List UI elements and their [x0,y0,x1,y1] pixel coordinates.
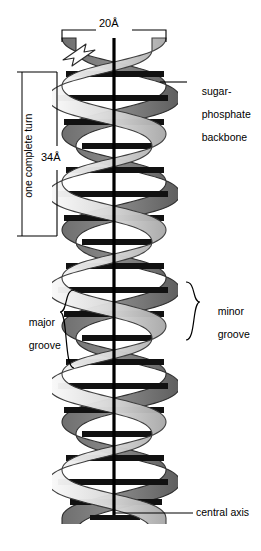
sugar-phosphate-line-3: backbone [202,131,248,143]
minor-groove-brace [186,282,200,340]
major-groove-line-1: major [29,316,55,328]
minor-groove-label: minor groove [206,294,250,352]
dna-diagram-canvas: 20Å 34Å one complete turn sugar- phospha… [0,0,261,551]
major-groove-line-2: groove [29,339,61,351]
sugar-phosphate-line-1: sugar- [202,85,232,97]
central-axis-label: central axis [196,507,249,519]
pitch-label: 34Å [41,151,61,163]
minor-groove-line-1: minor [218,305,244,317]
sugar-phosphate-backbone-label: sugar- phosphate backbone [190,74,251,155]
minor-groove-line-2: groove [218,328,250,340]
diameter-label: 20Å [99,17,119,29]
sugar-phosphate-line-2: phosphate [202,108,251,120]
one-complete-turn-label: one complete turn [23,101,35,211]
major-groove-label: major groove [17,305,61,363]
